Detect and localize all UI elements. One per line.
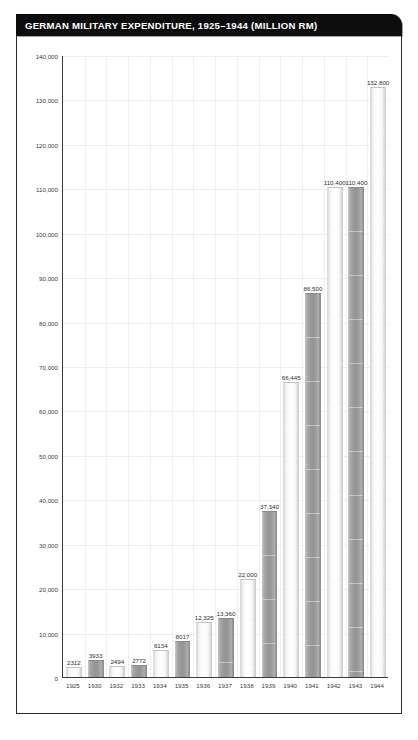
bar[interactable]: 3933 xyxy=(88,660,104,677)
x-axis-tick-label: 1933 xyxy=(127,682,149,689)
x-axis-tick-label: 1941 xyxy=(301,682,323,689)
bar-value-label: 37,340 xyxy=(260,503,279,510)
plot-area: 23123933249427726134801712,32513,36022,0… xyxy=(62,56,388,678)
bar-series: 23123933249427726134801712,32513,36022,0… xyxy=(63,56,388,677)
x-axis-tick-label: 1942 xyxy=(323,682,345,689)
x-axis-tick-label: 1938 xyxy=(236,682,258,689)
bar-value-label: 86,500 xyxy=(303,285,322,292)
bar-slot: 3933 xyxy=(85,56,107,677)
bar-value-label: 110,400 xyxy=(324,179,346,186)
bar-value-label: 2772 xyxy=(132,657,146,664)
bar-slot: 2772 xyxy=(128,56,150,677)
bar-slot: 86,500 xyxy=(302,56,324,677)
y-axis-tick-label: 120,000 xyxy=(18,141,62,148)
y-axis-tick-label: 20,000 xyxy=(18,586,62,593)
y-axis-tick-label: 60,000 xyxy=(18,408,62,415)
bar-slot: 110,400 xyxy=(324,56,346,677)
bar-slot: 12,325 xyxy=(193,56,215,677)
chart-screenshot: GERMAN MILITARY EXPENDITURE, 1925–1944 (… xyxy=(0,0,418,740)
bar-slot: 2494 xyxy=(106,56,128,677)
x-axis-tick-label: 1925 xyxy=(62,682,84,689)
bar-value-label: 12,325 xyxy=(195,614,214,621)
x-axis-tick-label: 1937 xyxy=(214,682,236,689)
x-axis-tick-label: 1934 xyxy=(149,682,171,689)
y-axis-tick-label: 0 xyxy=(18,675,62,682)
bar[interactable]: 2312 xyxy=(66,667,82,677)
x-axis-tick-labels: 1925193019321933193419351936193719381939… xyxy=(62,680,388,694)
x-axis-tick-label: 1932 xyxy=(105,682,127,689)
bar[interactable]: 2772 xyxy=(131,665,147,677)
bar-value-label: 8017 xyxy=(176,633,190,640)
bar-slot: 13,360 xyxy=(215,56,237,677)
y-axis-tick-label: 70,000 xyxy=(18,364,62,371)
bar[interactable]: 2494 xyxy=(109,666,125,677)
bar-value-label: 110,400 xyxy=(345,179,367,186)
chart-title-banner: GERMAN MILITARY EXPENDITURE, 1925–1944 (… xyxy=(16,14,402,36)
bar-value-label: 22,000 xyxy=(238,571,257,578)
bar-value-label: 2312 xyxy=(67,659,81,666)
y-axis-tick-label: 30,000 xyxy=(18,541,62,548)
bar[interactable]: 132,800 xyxy=(370,87,386,677)
bar-slot: 110,400 xyxy=(346,56,368,677)
bar-value-label: 6134 xyxy=(154,642,168,649)
bar[interactable]: 13,360 xyxy=(218,618,234,677)
x-axis-tick-label: 1943 xyxy=(345,682,367,689)
bar-slot: 8017 xyxy=(172,56,194,677)
y-axis-tick-label: 80,000 xyxy=(18,319,62,326)
bar[interactable]: 110,400 xyxy=(327,187,343,677)
x-axis-tick-label: 1935 xyxy=(171,682,193,689)
bar-value-label: 132,800 xyxy=(367,79,389,86)
y-axis-tick-label: 10,000 xyxy=(18,630,62,637)
chart-area: 010,00020,00030,00040,00050,00060,00070,… xyxy=(16,40,402,700)
x-axis-tick-label: 1940 xyxy=(279,682,301,689)
bar-slot: 66,445 xyxy=(280,56,302,677)
y-axis-tick-label: 40,000 xyxy=(18,497,62,504)
bar[interactable]: 86,500 xyxy=(305,293,321,677)
bar-slot: 37,340 xyxy=(259,56,281,677)
y-axis-tick-labels: 010,00020,00030,00040,00050,00060,00070,… xyxy=(16,56,62,678)
bar[interactable]: 110,400 xyxy=(348,187,364,677)
x-axis-tick-label: 1936 xyxy=(192,682,214,689)
bar-value-label: 13,360 xyxy=(217,610,236,617)
y-axis-tick-label: 110,000 xyxy=(18,186,62,193)
bar-value-label: 66,445 xyxy=(282,374,301,381)
bar-value-label: 2494 xyxy=(110,658,124,665)
y-axis-tick-label: 90,000 xyxy=(18,275,62,282)
page-title: GERMAN MILITARY EXPENDITURE, 1925–1944 (… xyxy=(16,20,317,31)
y-axis-tick-label: 140,000 xyxy=(18,53,62,60)
bar-slot: 132,800 xyxy=(367,56,389,677)
bar[interactable]: 8017 xyxy=(175,641,191,677)
y-axis-tick-label: 100,000 xyxy=(18,230,62,237)
bar[interactable]: 12,325 xyxy=(196,622,212,677)
x-axis-tick-label: 1930 xyxy=(84,682,106,689)
x-axis-tick-label: 1939 xyxy=(258,682,280,689)
bar[interactable]: 66,445 xyxy=(283,382,299,677)
bar-slot: 22,000 xyxy=(237,56,259,677)
bar[interactable]: 37,340 xyxy=(262,511,278,677)
y-axis-tick-label: 130,000 xyxy=(18,97,62,104)
y-axis-tick-label: 50,000 xyxy=(18,452,62,459)
bar-slot: 6134 xyxy=(150,56,172,677)
x-axis-tick-label: 1944 xyxy=(366,682,388,689)
bar[interactable]: 6134 xyxy=(153,650,169,677)
bar-value-label: 3933 xyxy=(89,652,103,659)
bar-slot: 2312 xyxy=(63,56,85,677)
bar[interactable]: 22,000 xyxy=(240,579,256,677)
